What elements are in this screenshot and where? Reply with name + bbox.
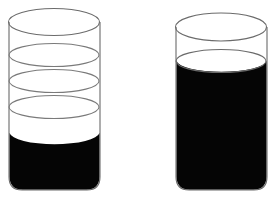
beaker-illustration <box>0 0 280 207</box>
beaker-right-liquid <box>177 61 267 189</box>
